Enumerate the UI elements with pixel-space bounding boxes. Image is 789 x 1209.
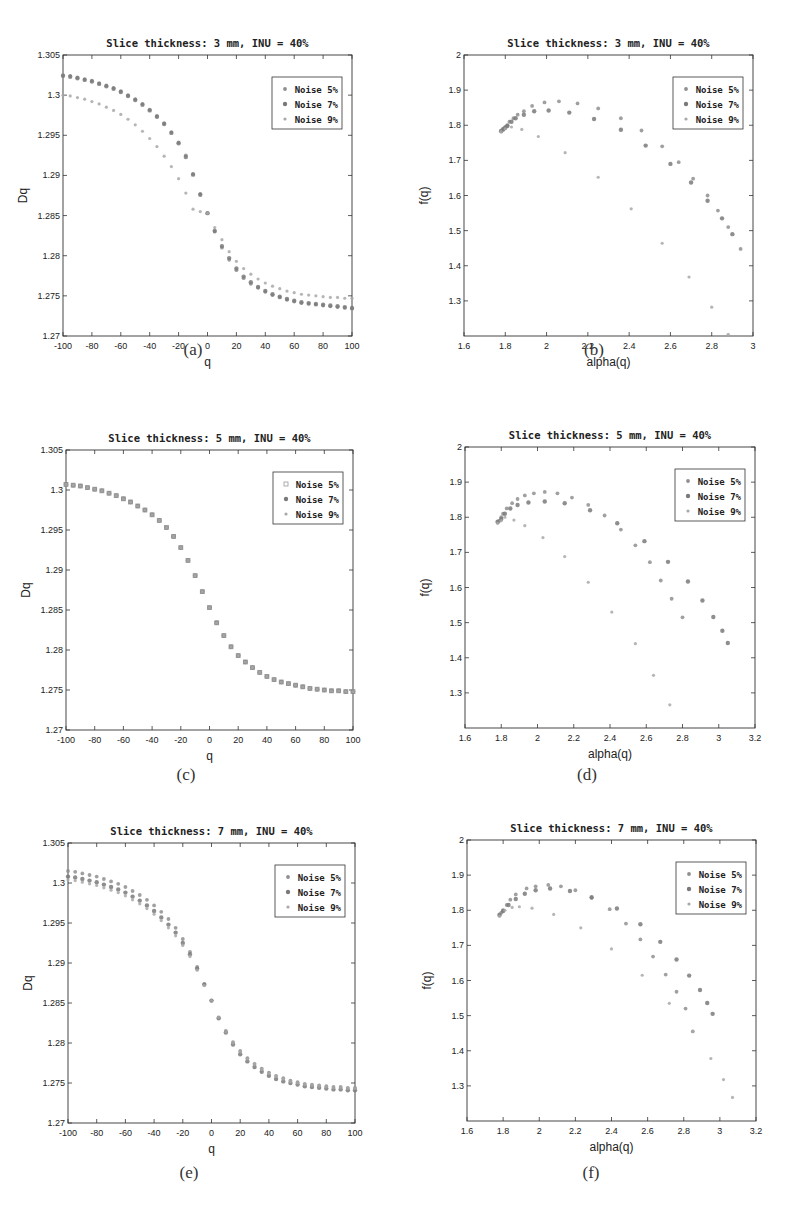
legend-entry: Noise 5% [296,480,340,490]
x-tick-label: 2.4 [604,733,617,743]
y-tick-label: 1.29 [47,958,65,968]
x-tick-label: 2.6 [641,1126,654,1136]
y-tick-label: 1.3 [50,485,63,495]
x-tick-label: 80 [319,735,329,745]
y-tick-label: 1.305 [37,50,60,60]
y-tick-label: 1.275 [42,1078,65,1088]
legend-entry: Noise 7% [298,888,342,898]
chart-title: Slice thickness: 5 mm, INU = 40% [108,432,311,444]
x-tick-label: -40 [143,341,156,351]
legend-entry: Noise 9% [696,115,740,125]
x-tick-label: -60 [114,341,127,351]
y-axis-label: f(q) [420,971,434,989]
chart-title: Slice thickness: 7 mm, INU = 40% [510,822,713,834]
legend-entry: Noise 7% [295,100,339,110]
y-tick-label: 1.3 [47,90,60,100]
x-tick-label: 80 [318,341,328,351]
subfigure-caption: (a) [163,340,223,360]
legend-entry: Noise 7% [696,100,740,110]
x-tick-label: 2.8 [677,1126,690,1136]
y-tick-label: 1.6 [448,191,461,201]
y-tick-label: 1.9 [449,477,462,487]
y-tick-label: 1.295 [42,918,65,928]
y-tick-label: 1.295 [37,130,60,140]
x-tick-label: 1.8 [499,341,512,351]
y-tick-label: 1.305 [42,838,65,848]
x-tick-label: 2 [537,1126,542,1136]
x-tick-label: 2 [535,733,540,743]
y-tick-label: 1.275 [40,685,63,695]
y-tick-label: 1.4 [448,261,461,271]
y-tick-label: 1.4 [451,1046,464,1056]
x-tick-label: -60 [117,735,130,745]
x-tick-label: 20 [235,1128,245,1138]
y-tick-label: 1.28 [42,251,60,261]
y-tick-label: 1.295 [40,525,63,535]
subfigure-caption: (f) [561,1163,621,1183]
x-axis-label: q [208,1142,215,1156]
subfigure-caption: (e) [159,1163,219,1183]
y-tick-label: 1.29 [45,565,63,575]
y-tick-label: 1.28 [45,645,63,655]
x-tick-label: 2.4 [623,341,636,351]
x-tick-label: 1.8 [495,733,508,743]
panel-a: Slice thickness: 3 mm, INU = 40%-100-80-… [11,25,360,380]
legend: Noise 5%Noise 7%Noise 9% [673,77,743,129]
legend: Noise 5%Noise 7%Noise 9% [676,862,746,914]
legend-entry: Noise 9% [699,900,743,910]
legend-entry: Noise 9% [296,510,340,520]
panel-f: Slice thickness: 7 mm, INU = 40%1.61.822… [415,810,764,1165]
y-tick-label: 1.5 [451,1011,464,1021]
y-tick-label: 2 [457,442,462,452]
legend-entry: Noise 5% [696,85,740,95]
legend-entry: Noise 9% [298,903,342,913]
y-tick-label: 1.6 [451,976,464,986]
x-tick-label: 1.6 [458,341,471,351]
y-axis-label: Dq [21,975,35,990]
legend-entry: Noise 5% [699,870,743,880]
x-tick-label: 2.2 [569,1126,582,1136]
subfigure-caption: (d) [557,765,617,785]
y-tick-label: 1.28 [47,1038,65,1048]
x-tick-label: 20 [231,341,241,351]
y-tick-label: 1.8 [451,905,464,915]
legend-entry: Noise 7% [699,885,743,895]
legend: Noise 5%Noise 7%Noise 9% [675,469,745,521]
x-axis-label: alpha(q) [589,1140,633,1154]
x-tick-label: 60 [291,735,301,745]
x-tick-label: 2.2 [567,733,580,743]
y-axis-label: f(q) [417,186,431,204]
x-tick-label: -60 [119,1128,132,1138]
x-tick-label: 3 [750,341,755,351]
series-3 [498,905,734,1099]
legend-entry: Noise 7% [698,492,742,502]
y-tick-label: 1.3 [449,688,462,698]
x-tick-label: -80 [90,1128,103,1138]
x-tick-label: 2.6 [640,733,653,743]
y-tick-label: 2 [459,835,464,845]
x-tick-label: -100 [54,341,72,351]
x-tick-label: 80 [321,1128,331,1138]
y-tick-label: 1.5 [448,226,461,236]
x-tick-label: 3 [717,1126,722,1136]
x-tick-label: 1.6 [461,1126,474,1136]
x-tick-label: -40 [146,735,159,745]
subfigure-caption: (c) [156,765,216,785]
series-3 [496,516,671,707]
y-tick-label: 1.7 [451,940,464,950]
chart-title: Slice thickness: 7 mm, INU = 40% [110,825,313,837]
x-axis-label: q [206,749,213,763]
legend: Noise 5%Noise 7%Noise 9% [275,865,345,917]
y-tick-label: 1.285 [40,605,63,615]
y-tick-label: 1.3 [52,878,65,888]
x-tick-label: 3.2 [750,1126,763,1136]
panel-c: Slice thickness: 5 mm, INU = 40%-100-80-… [14,420,361,774]
legend: Noise 5%Noise 7%Noise 9% [272,77,342,129]
x-tick-label: 60 [293,1128,303,1138]
x-tick-label: 2.4 [605,1126,618,1136]
x-tick-label: -80 [85,341,98,351]
y-tick-label: 1.27 [47,1118,65,1128]
x-tick-label: 2.8 [705,341,718,351]
x-tick-label: -20 [174,735,187,745]
y-tick-label: 1.3 [451,1081,464,1091]
